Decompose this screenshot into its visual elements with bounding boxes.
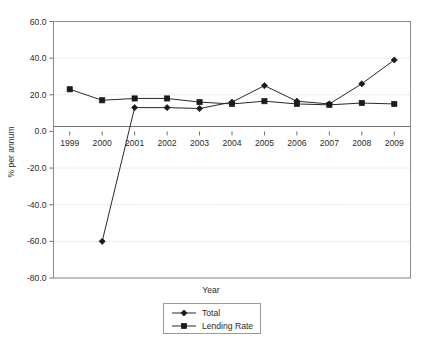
data-point-square [229,101,234,106]
y-tick-label: -80.0 [27,273,47,283]
x-tick-label: 2003 [190,138,209,148]
x-tick-label: 2000 [93,138,112,148]
y-tick-label: -60.0 [27,236,47,246]
data-point-square [164,96,169,101]
series-lending-rate [67,87,397,108]
data-point-square [327,102,332,107]
y-tick-label: -20.0 [27,163,47,173]
data-point-diamond [132,105,138,111]
data-point-square [197,100,202,105]
data-point-square [100,98,105,103]
legend-label: Lending Rate [202,321,253,331]
x-tick-label: 2004 [222,138,241,148]
y-axis-tick-marks [50,22,54,279]
x-axis-title: Year [202,285,220,295]
x-tick-label: 1999 [60,138,79,148]
x-tick-label: 2009 [385,138,404,148]
data-point-diamond [164,105,170,111]
x-tick-label: 2008 [352,138,371,148]
data-point-diamond [99,238,105,244]
y-axis-tick-labels: 60.040.020.00.0-20.0-40.0-60.0-80.0 [27,17,47,284]
data-point-square [181,323,186,328]
x-tick-label: 2002 [158,138,177,148]
x-tick-label: 2005 [255,138,274,148]
y-axis-title: % per annum [6,126,16,177]
x-tick-label: 2001 [125,138,144,148]
data-point-square [67,87,72,92]
data-point-square [262,99,267,104]
y-tick-label: 60.0 [30,17,47,27]
x-axis-tick-marks [70,131,395,135]
data-point-diamond [196,105,202,111]
plot-area-frame [54,22,411,279]
line-chart: 60.040.020.00.0-20.0-40.0-60.0-80.0 1999… [0,0,422,344]
y-tick-label: 0.0 [35,126,47,136]
y-tick-label: 40.0 [30,53,47,63]
data-point-square [132,96,137,101]
y-tick-label: -40.0 [27,200,47,210]
data-point-square [294,101,299,106]
chart-container: 60.040.020.00.0-20.0-40.0-60.0-80.0 1999… [0,0,422,344]
x-tick-label: 2007 [320,138,339,148]
y-tick-label: 20.0 [30,90,47,100]
x-axis-tick-labels: 1999200020012002200320042005200620072008… [60,138,404,148]
data-point-square [359,100,364,105]
series-polyline [102,60,394,241]
y-gridlines [55,58,410,278]
legend-label: Total [202,308,220,318]
x-tick-label: 2006 [287,138,306,148]
data-point-square [392,101,397,106]
legend: TotalLending Rate [164,304,261,334]
data-point-diamond [261,83,267,89]
series-total [99,57,397,245]
